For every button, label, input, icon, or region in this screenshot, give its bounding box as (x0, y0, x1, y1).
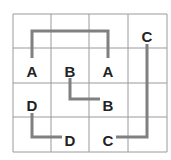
cell-label-b: B (103, 97, 114, 114)
path-b (70, 78, 100, 99)
cell-label-c: C (142, 28, 153, 45)
cell-label-d: D (27, 97, 38, 114)
puzzle-canvas: ABACDBDC (0, 0, 171, 160)
cell-label-d: D (65, 132, 76, 149)
cell-labels: ABACDBDC (27, 28, 153, 149)
cell-label-a: A (103, 63, 114, 80)
cell-label-b: B (65, 63, 76, 80)
cell-label-a: A (27, 63, 38, 80)
path-a (32, 31, 108, 58)
cell-label-c: C (103, 132, 114, 149)
path-c (116, 44, 147, 137)
numberlink-puzzle: ABACDBDC (0, 0, 171, 160)
